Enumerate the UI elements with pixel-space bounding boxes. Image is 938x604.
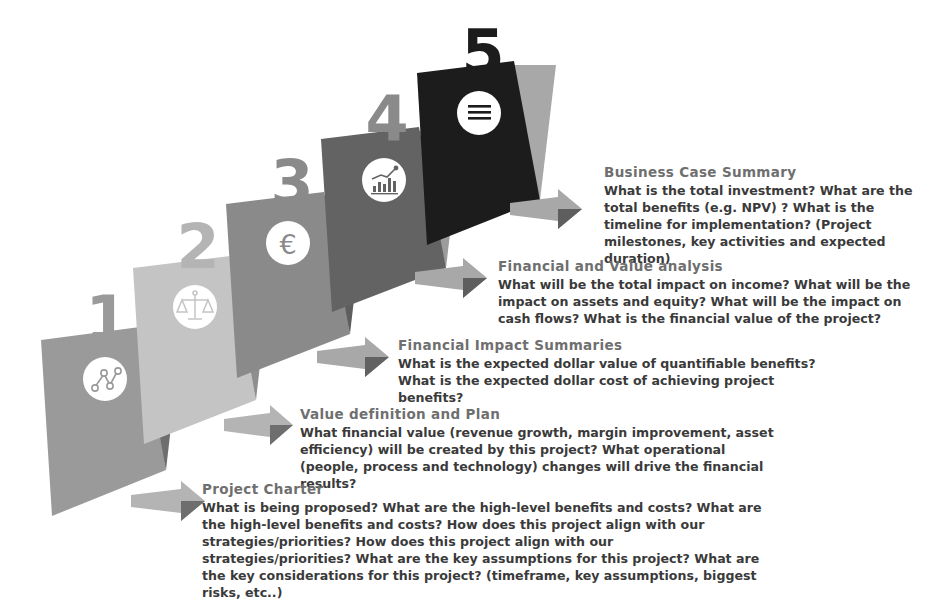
step-3-text-block: Financial Impact Summaries What is the e… <box>398 337 842 406</box>
step-5-arrow-shadow <box>558 209 582 229</box>
euro-currency-icon: € <box>279 229 296 260</box>
step-2-arrow <box>224 405 293 445</box>
step-3-body: What is the expected dollar value of qua… <box>398 355 842 406</box>
step-5-number: 5 <box>461 16 504 89</box>
step-2-text-block: Value definition and Plan What financial… <box>300 406 776 492</box>
step-1-number: 1 <box>85 282 128 355</box>
document-lines-icon <box>468 105 491 120</box>
step-4-icon-disc <box>362 158 406 202</box>
step-1-title: Project Charter <box>202 481 762 497</box>
step-4-arrow-shadow <box>463 278 487 298</box>
step-4-title: Financial and Value analysis <box>498 258 930 274</box>
step-5-group[interactable]: 5 <box>417 16 582 245</box>
step-1-icon-disc <box>83 357 127 401</box>
step-1-arrow <box>131 481 205 521</box>
step-4-number: 4 <box>365 82 408 155</box>
step-3-number: 3 <box>270 146 313 219</box>
step-5-text-block: Business Case Summary What is the total … <box>604 164 934 267</box>
step-2-number: 2 <box>176 210 219 283</box>
step-1-text-block: Project Charter What is being proposed? … <box>202 481 762 601</box>
step-3-arrow-shadow <box>365 357 389 377</box>
step-1-body: What is being proposed? What are the hig… <box>202 499 762 601</box>
step-3-arrow <box>317 337 389 377</box>
step-2-title: Value definition and Plan <box>300 406 776 422</box>
step-4-body: What will be the total impact on income?… <box>498 276 930 327</box>
step-2-arrow-shadow <box>270 425 293 445</box>
step-5-title: Business Case Summary <box>604 164 934 180</box>
step-5-body: What is the total investment? What are t… <box>604 182 934 267</box>
step-3-title: Financial Impact Summaries <box>398 337 842 353</box>
diagram-canvas: 1 2 <box>0 0 938 604</box>
step-4-text-block: Financial and Value analysis What will b… <box>498 258 930 327</box>
